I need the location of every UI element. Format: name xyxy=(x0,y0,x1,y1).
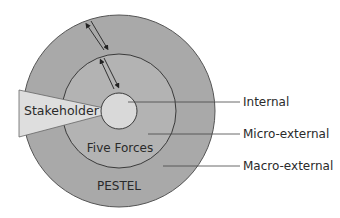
stakeholder-label: Stakeholder xyxy=(24,103,100,118)
micro-external-label: Micro-external xyxy=(243,127,329,141)
inner-circle-internal xyxy=(101,93,137,129)
pestel-label: PESTEL xyxy=(97,179,141,193)
macro-external-label: Macro-external xyxy=(243,159,333,173)
five-forces-label: Five Forces xyxy=(87,141,153,155)
environment-analysis-diagram: Stakeholder Five Forces PESTEL Internal … xyxy=(0,0,340,218)
internal-label: Internal xyxy=(243,95,289,109)
